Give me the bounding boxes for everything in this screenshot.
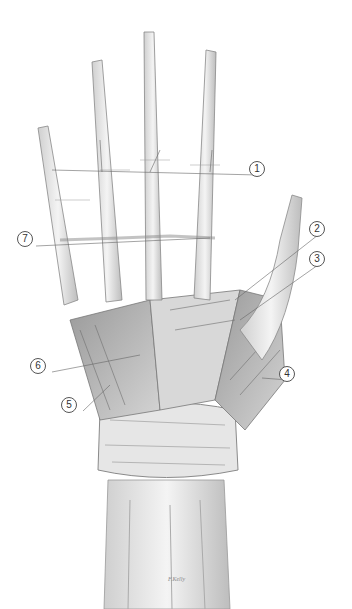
thumb <box>240 195 302 360</box>
callout-5: 5 <box>61 397 77 413</box>
callout-2: 2 <box>309 221 325 237</box>
fingers <box>38 32 220 305</box>
hand-anatomy-illustration <box>0 0 352 609</box>
callout-4: 4 <box>279 366 295 382</box>
callout-1: 1 <box>249 161 265 177</box>
callout-6: 6 <box>30 358 46 374</box>
forearm <box>104 480 230 609</box>
callout-3: 3 <box>309 251 325 267</box>
callout-7: 7 <box>17 231 33 247</box>
artist-signature: F.Kelly <box>168 576 185 582</box>
